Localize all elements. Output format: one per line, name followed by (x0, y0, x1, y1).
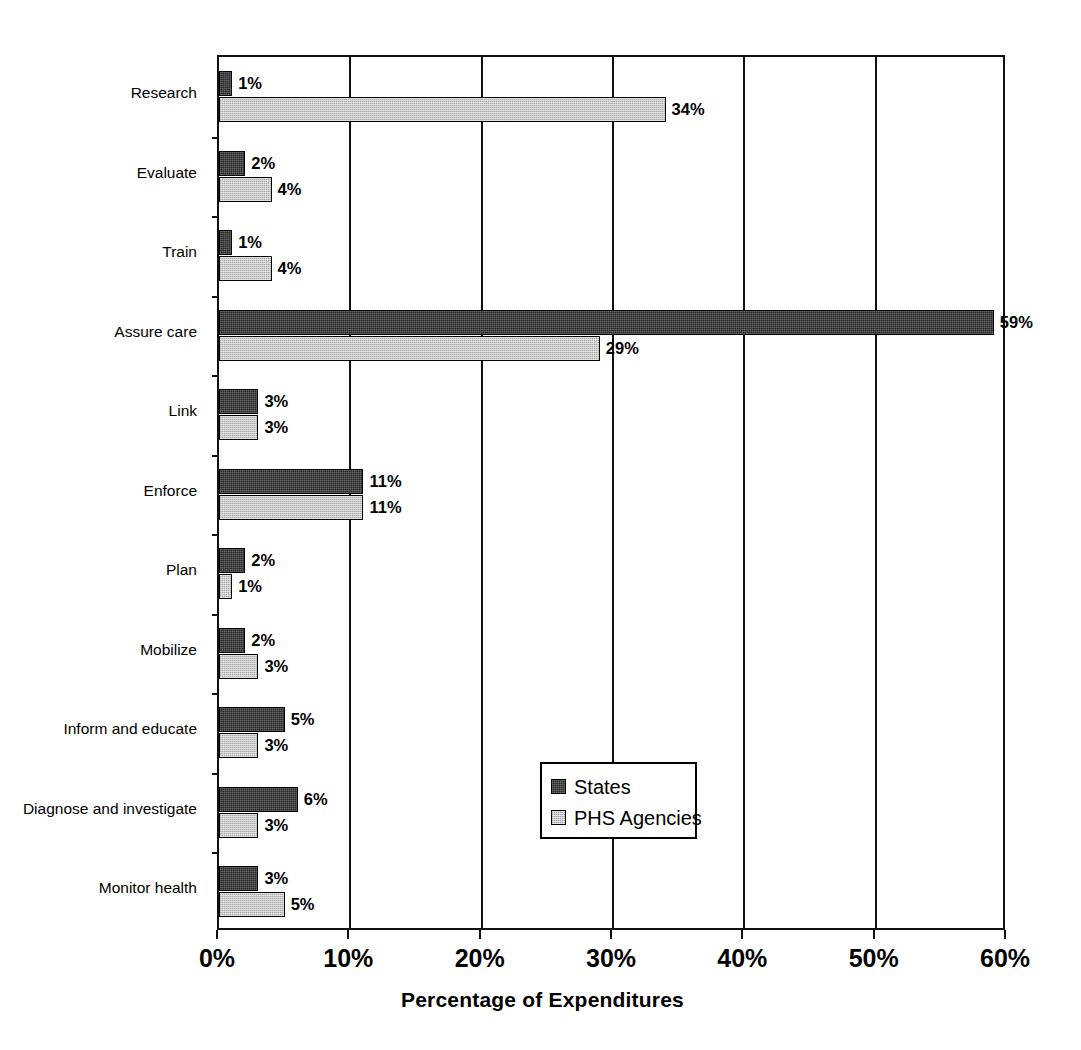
legend-swatch-states-icon (551, 779, 566, 794)
bar-states (219, 548, 245, 573)
bar-phs (219, 97, 666, 122)
bar-value-label: 2% (251, 151, 275, 176)
x-axis-tick-label: 50% (849, 944, 899, 973)
x-axis-tick-label: 20% (455, 944, 505, 973)
y-axis-tick (212, 614, 219, 616)
y-axis-tick (212, 693, 219, 695)
bar-phs (219, 813, 258, 838)
bar-value-label: 11% (369, 495, 401, 520)
x-axis-tick (741, 930, 743, 939)
bar-states (219, 230, 232, 255)
y-axis-category-label: Plan (0, 561, 208, 579)
bar-value-label: 3% (264, 415, 288, 440)
x-axis-tick (873, 930, 875, 939)
bar-phs (219, 733, 258, 758)
y-axis-category-label: Mobilize (0, 641, 208, 659)
chart-category-row: Plan2%1% (219, 534, 1003, 614)
bar-value-label: 1% (238, 230, 262, 255)
bar-value-label: 2% (251, 628, 275, 653)
bar-value-label: 3% (264, 654, 288, 679)
x-axis-tick (216, 930, 218, 939)
bar-value-label: 1% (238, 574, 262, 599)
x-axis-tick (610, 930, 612, 939)
chart-category-row: Enforce11%11% (219, 455, 1003, 535)
bar-phs (219, 654, 258, 679)
y-axis-tick (212, 216, 219, 218)
bar-phs (219, 177, 272, 202)
bar-phs (219, 574, 232, 599)
x-axis-title-text: Percentage of Expenditures (401, 988, 684, 1012)
y-axis-tick (212, 375, 219, 377)
y-axis-tick (212, 455, 219, 457)
legend-item-phs-agencies: PHS Agencies (551, 802, 695, 833)
x-axis-tick (1004, 930, 1006, 939)
chart-category-row: Monitor health3%5% (219, 852, 1003, 932)
x-axis-tick-label: 0% (199, 944, 235, 973)
y-axis-tick (212, 137, 219, 139)
bar-value-label: 4% (278, 256, 302, 281)
x-axis-tick-label: 40% (717, 944, 767, 973)
y-axis-category-label: Inform and educate (0, 720, 208, 738)
bar-states (219, 71, 232, 96)
y-axis-category-label: Train (0, 243, 208, 261)
y-axis-category-label: Diagnose and investigate (0, 800, 208, 818)
bar-states (219, 787, 298, 812)
bar-value-label: 29% (606, 336, 639, 361)
bar-value-label: 3% (264, 389, 288, 414)
legend-label-states: States (574, 777, 631, 797)
bar-states (219, 151, 245, 176)
bar-value-label: 34% (672, 97, 705, 122)
y-axis-category-label: Research (0, 84, 208, 102)
bar-phs (219, 256, 272, 281)
bar-states (219, 310, 994, 335)
bar-states (219, 707, 285, 732)
y-axis-tick (212, 773, 219, 775)
chart-category-row: Research1%34% (219, 57, 1003, 137)
bar-states (219, 469, 363, 494)
bar-value-label: 59% (1000, 310, 1033, 335)
bar-value-label: 3% (264, 813, 288, 838)
chart-category-row: Link3%3% (219, 375, 1003, 455)
bar-value-label: 11% (369, 469, 401, 494)
legend: States PHS Agencies (540, 762, 697, 839)
bar-chart: Research1%34%Evaluate2%4%Train1%4%Assure… (0, 0, 1081, 1050)
chart-category-row: Assure care59%29% (219, 296, 1003, 376)
x-axis-tick-label: 30% (586, 944, 636, 973)
y-axis-category-label: Enforce (0, 482, 208, 500)
bar-value-label: 5% (291, 707, 315, 732)
bar-phs (219, 415, 258, 440)
bar-value-label: 3% (264, 733, 288, 758)
legend-swatch-phs-agencies-icon (551, 810, 566, 825)
bar-phs (219, 892, 285, 917)
x-axis-tick-label: 10% (323, 944, 373, 973)
chart-category-row: Evaluate2%4% (219, 137, 1003, 217)
y-axis-category-label: Link (0, 402, 208, 420)
x-axis-tick-label: 60% (980, 944, 1030, 973)
bar-states (219, 866, 258, 891)
legend-label-phs-agencies: PHS Agencies (574, 808, 702, 828)
bar-value-label: 3% (264, 866, 288, 891)
chart-category-row: Train1%4% (219, 216, 1003, 296)
chart-category-row: Mobilize2%3% (219, 614, 1003, 694)
bar-value-label: 6% (304, 787, 328, 812)
bar-value-label: 5% (291, 892, 315, 917)
x-axis-tick (479, 930, 481, 939)
bar-phs (219, 336, 600, 361)
bar-phs (219, 495, 363, 520)
x-axis-tick (347, 930, 349, 939)
bar-states (219, 389, 258, 414)
bar-states (219, 628, 245, 653)
bar-value-label: 2% (251, 548, 275, 573)
chart-category-row: Inform and educate5%3% (219, 693, 1003, 773)
y-axis-tick (212, 296, 219, 298)
bar-value-label: 1% (238, 71, 262, 96)
y-axis-category-label: Assure care (0, 323, 208, 341)
y-axis-category-label: Monitor health (0, 879, 208, 897)
legend-item-states: States (551, 771, 695, 802)
y-axis-tick (212, 852, 219, 854)
x-axis-title: Percentage of Expenditures (0, 988, 1081, 1012)
y-axis-tick (212, 534, 219, 536)
y-axis-category-label: Evaluate (0, 164, 208, 182)
bar-value-label: 4% (278, 177, 302, 202)
